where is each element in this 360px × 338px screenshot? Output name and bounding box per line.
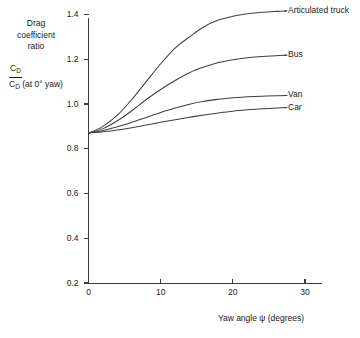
- y-axis-label-fraction: CD CD (at 0° yaw): [9, 63, 63, 92]
- x-tick-label-0: 0: [77, 288, 101, 297]
- y-tick-label-0.6: 0.6: [53, 189, 79, 198]
- curve-articulated-truck: [89, 11, 287, 133]
- y-axis-label-line-1: coefficient: [2, 30, 70, 42]
- drag-coefficient-ratio-chart: Dragcoefficientratio CD CD (at 0° yaw) Y…: [0, 0, 360, 338]
- y-tick-label-0.4: 0.4: [53, 234, 79, 243]
- curve-label-leaders: [284, 11, 287, 108]
- y-tick-label-0.2: 0.2: [53, 279, 79, 288]
- x-axis-ticks: [89, 279, 306, 284]
- fraction-numerator: CD: [9, 63, 22, 78]
- curve-label-van: Van: [288, 90, 303, 99]
- y-tick-label-1.4: 1.4: [53, 10, 79, 19]
- fraction-denominator: CD (at 0° yaw): [9, 78, 63, 92]
- curve-label-car: Car: [288, 103, 302, 112]
- x-tick-label-20: 20: [221, 288, 245, 297]
- y-tick-label-0.8: 0.8: [53, 144, 79, 153]
- curve-label-articulated-truck: Articulated truck: [288, 6, 349, 15]
- curve-bus: [89, 55, 287, 133]
- y-axis-label-text: Dragcoefficientratio: [2, 18, 70, 53]
- curve-label-bus: Bus: [288, 50, 303, 59]
- y-tick-label-1.0: 1.0: [53, 100, 79, 109]
- data-curves: [89, 11, 287, 133]
- x-tick-label-10: 10: [149, 288, 173, 297]
- x-axis-label: Yaw angle ψ (degrees): [196, 313, 326, 323]
- y-axis-ticks: [84, 15, 89, 284]
- y-tick-label-1.2: 1.2: [53, 55, 79, 64]
- x-tick-label-30: 30: [293, 288, 317, 297]
- axes: [89, 18, 323, 284]
- y-axis-label-line-2: ratio: [2, 41, 70, 53]
- y-axis-label-line-0: Drag: [2, 18, 70, 30]
